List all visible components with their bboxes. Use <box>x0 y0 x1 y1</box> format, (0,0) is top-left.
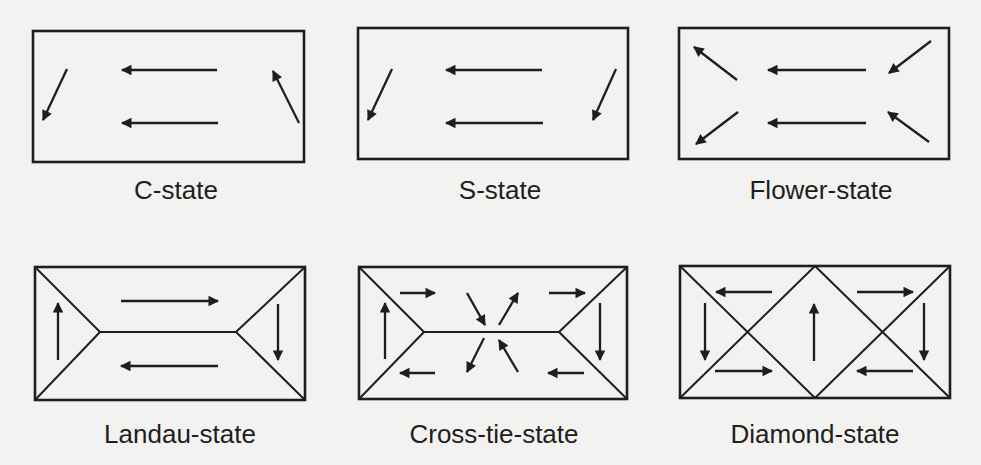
domain-wall <box>359 267 424 332</box>
domain-wall <box>359 332 424 399</box>
arrow-up-left-icon <box>273 71 299 123</box>
domain-wall <box>559 332 627 399</box>
panel-cross-tie-state <box>359 267 627 399</box>
domain-wall <box>559 267 627 332</box>
label-s-state: S-state <box>459 177 541 203</box>
element-outline <box>33 31 304 162</box>
element-outline <box>679 28 949 159</box>
label-landau-state: Landau-state <box>104 421 256 447</box>
panel-flower-state <box>679 28 949 159</box>
panel-s-state <box>358 28 628 159</box>
domain-wall <box>35 267 100 332</box>
panels-layer <box>33 28 950 400</box>
label-diamond-state: Diamond-state <box>730 421 899 447</box>
element-outline <box>35 267 305 400</box>
panel-landau-state <box>35 267 305 400</box>
arrow-down-left-icon <box>593 69 616 120</box>
arrow-down-left-icon <box>43 69 67 120</box>
arrow-up-left-icon <box>888 112 929 142</box>
label-flower-state: Flower-state <box>749 177 892 203</box>
panel-diamond-state <box>680 266 950 398</box>
arrow-down-right-icon <box>467 293 485 325</box>
figure-canvas <box>0 0 981 465</box>
arrow-down-left-icon <box>696 112 738 144</box>
domain-states-figure: C-state S-state Flower-state Landau-stat… <box>0 0 981 465</box>
arrow-down-left-icon <box>467 338 484 372</box>
element-outline <box>358 28 628 159</box>
domain-wall <box>35 332 100 400</box>
domain-wall <box>236 267 305 332</box>
arrow-up-left-icon <box>694 47 737 80</box>
arrow-down-left-icon <box>368 69 392 120</box>
arrow-up-right-icon <box>499 293 518 325</box>
arrow-up-left-icon <box>499 340 518 372</box>
arrow-down-left-icon <box>889 41 931 73</box>
domain-wall <box>236 332 305 400</box>
panel-c-state <box>33 31 304 162</box>
label-cross-tie-state: Cross-tie-state <box>409 421 578 447</box>
label-c-state: C-state <box>134 177 218 203</box>
